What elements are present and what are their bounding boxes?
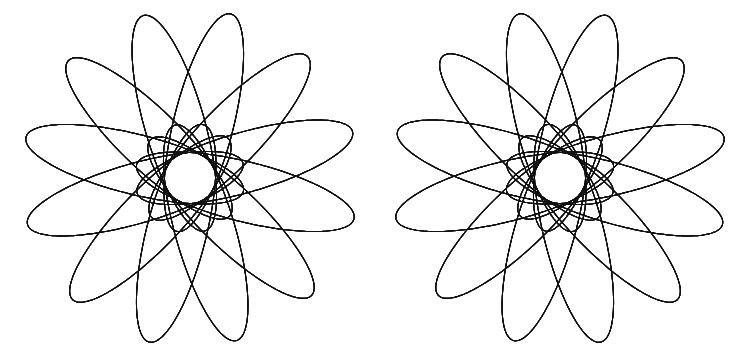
spirograph-figure-svg [0,0,740,363]
canvas-background [0,0,740,363]
artwork-canvas [0,0,740,363]
